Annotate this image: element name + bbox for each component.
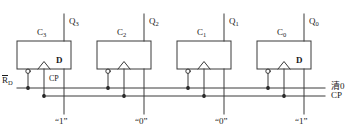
- data-value-label-c1: “0”: [215, 117, 228, 126]
- flipflop-label-c3: C3: [37, 28, 46, 37]
- circuit-schematic-svg: [0, 0, 360, 135]
- output-label-q1: Q1: [229, 17, 239, 26]
- output-label-q3: Q3: [69, 17, 79, 26]
- data-value-label-c3: “1”: [55, 117, 68, 126]
- reset-bubble-c0: [266, 69, 270, 73]
- flipflop-box-c1: [177, 41, 231, 69]
- data-value-label-c2: “0”: [135, 117, 148, 126]
- clock-bus-label: CP: [331, 91, 342, 100]
- clock-triangle-c3: [38, 62, 50, 70]
- output-label-q0: Q0: [309, 17, 319, 26]
- d-input-label-c3: D: [56, 56, 63, 65]
- output-label-q2: Q2: [149, 17, 159, 26]
- flipflop-box-c2: [97, 41, 151, 69]
- clock-triangle-c1: [198, 62, 210, 70]
- reset-bubble-c2: [106, 69, 110, 73]
- d-input-label-c0: D: [296, 56, 303, 65]
- circuit-diagram: Q3 Q2 Q1 Q0 C3 C2 C1 C0 D D RD CP 清0 CP …: [0, 0, 360, 135]
- clock-pin-label: CP: [49, 75, 59, 83]
- clock-triangle-c2: [118, 62, 130, 70]
- data-value-label-c0: “1”: [295, 117, 308, 126]
- clock-triangle-c0: [278, 62, 290, 70]
- flipflop-label-c1: C1: [197, 28, 206, 37]
- reset-bubble-c1: [186, 69, 190, 73]
- reset-bubble-c3: [26, 69, 30, 73]
- flipflop-label-c0: C0: [277, 28, 286, 37]
- reset-pin-label: RD: [2, 75, 13, 85]
- flipflop-label-c2: C2: [117, 28, 126, 37]
